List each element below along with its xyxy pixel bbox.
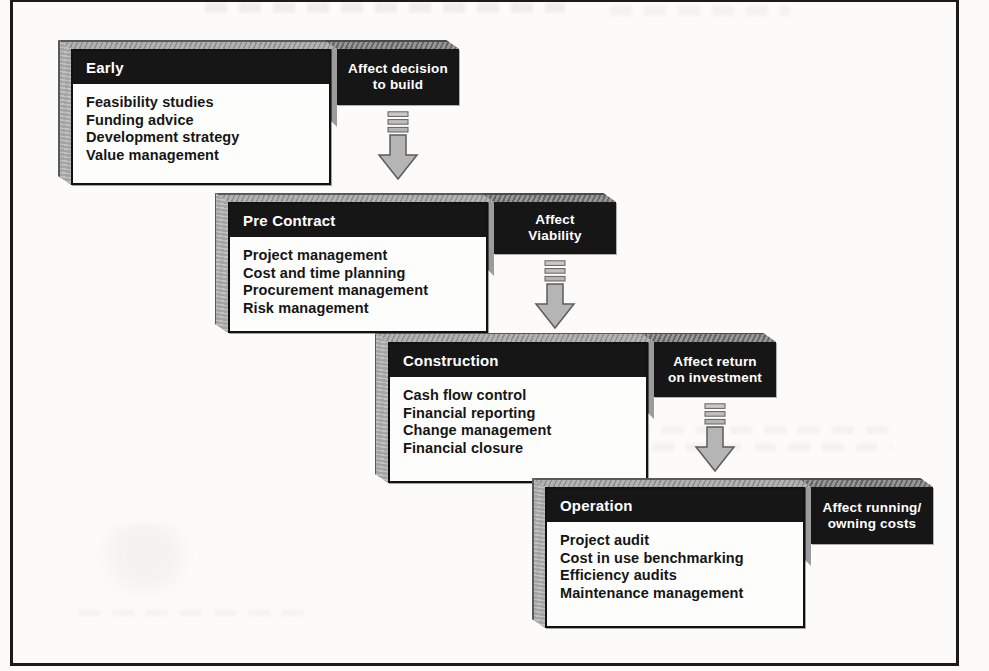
stage-items: Feasibility studies Funding advice Devel… xyxy=(73,84,329,164)
flow-arrow-icon xyxy=(376,111,420,181)
effect-line-1: Affect return xyxy=(673,354,757,370)
stage-item: Financial closure xyxy=(403,440,633,458)
stage-header: Early xyxy=(73,51,329,84)
box-left-face xyxy=(215,193,228,333)
stage-box-early: Early Feasibility studies Funding advice… xyxy=(71,49,331,185)
stage-item: Financial reporting xyxy=(403,405,633,423)
stage-item: Feasibility studies xyxy=(86,94,316,112)
effect-top-face xyxy=(641,333,776,342)
stage-item: Change management xyxy=(403,422,633,440)
effect-top-face xyxy=(324,40,459,49)
effect-label: Affect running/ owning costs xyxy=(811,487,933,544)
stage-title: Pre Contract xyxy=(243,212,335,229)
stage-items: Project management Cost and time plannin… xyxy=(230,237,486,317)
box-left-face xyxy=(532,478,545,628)
stage-item: Development strategy xyxy=(86,129,316,147)
stage-item: Funding advice xyxy=(86,112,316,130)
stage-title: Construction xyxy=(403,352,499,369)
effect-line-2: owning costs xyxy=(828,516,917,532)
effect-line-1: Affect decision xyxy=(348,61,448,77)
effect-line-2: on investment xyxy=(668,370,762,386)
stage-item: Cost in use benchmarking xyxy=(560,550,790,568)
page-background: { "figure_type": "cascading process diag… xyxy=(0,0,989,671)
effect-line-1: Affect running/ xyxy=(823,500,922,516)
effect-label: Affect decision to build xyxy=(337,49,459,105)
stage-header: Pre Contract xyxy=(230,204,486,237)
stage-item: Risk management xyxy=(243,300,473,318)
effect-top-face xyxy=(798,478,933,487)
flow-arrow-icon xyxy=(693,403,737,473)
effect-line-2: Viability xyxy=(528,228,581,244)
stage-items: Project audit Cost in use benchmarking E… xyxy=(547,522,803,602)
effect-line-2: to build xyxy=(373,77,423,93)
stage-header: Construction xyxy=(390,344,646,377)
stage-box-construction: Construction Cash flow control Financial… xyxy=(388,342,648,483)
stage-box-pre-contract: Pre Contract Project management Cost and… xyxy=(228,202,488,333)
stage-header: Operation xyxy=(547,489,803,522)
effect-label: Affect Viability xyxy=(494,202,616,254)
stage-item: Project management xyxy=(243,247,473,265)
stage-item: Efficiency audits xyxy=(560,567,790,585)
box-left-face xyxy=(375,333,388,483)
stage-box-operation: Operation Project audit Cost in use benc… xyxy=(545,487,805,628)
stage-item: Value management xyxy=(86,147,316,165)
effect-line-1: Affect xyxy=(535,212,574,228)
stage-item: Cost and time planning xyxy=(243,265,473,283)
effect-top-face xyxy=(481,193,616,202)
flow-arrow-icon xyxy=(533,260,577,330)
stage-item: Project audit xyxy=(560,532,790,550)
stage-title: Early xyxy=(86,59,124,76)
stage-item: Cash flow control xyxy=(403,387,633,405)
stage-item: Procurement management xyxy=(243,282,473,300)
stage-title: Operation xyxy=(560,497,633,514)
stage-item: Maintenance management xyxy=(560,585,790,603)
effect-label: Affect return on investment xyxy=(654,342,776,397)
stage-items: Cash flow control Financial reporting Ch… xyxy=(390,377,646,457)
box-left-face xyxy=(58,40,71,185)
